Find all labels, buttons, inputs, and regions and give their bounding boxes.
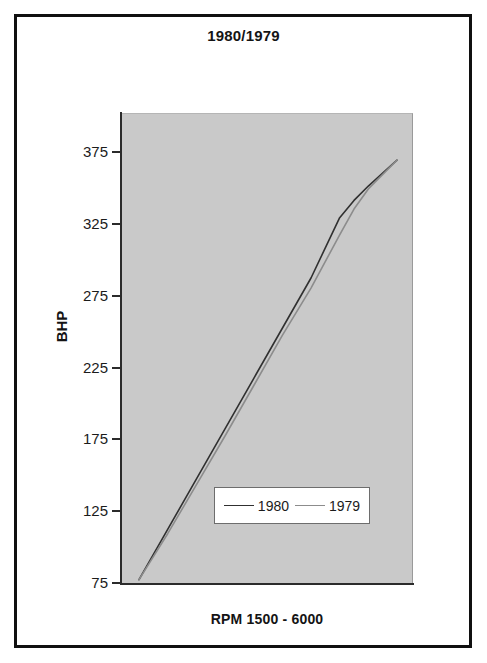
page-title: 1980/1979 bbox=[0, 27, 487, 44]
legend-entry-1980: 1980 bbox=[224, 499, 289, 513]
y-axis-tick-mark bbox=[112, 582, 121, 584]
y-axis-title: BHP bbox=[53, 310, 70, 344]
y-axis-tick-mark bbox=[112, 151, 121, 153]
x-axis-title: RPM 1500 - 6000 bbox=[121, 611, 413, 627]
y-axis-tick-label: 175 bbox=[38, 431, 108, 446]
legend-label: 1980 bbox=[258, 499, 289, 513]
y-axis-tick-mark bbox=[112, 438, 121, 440]
chart-legend: 19801979 bbox=[214, 487, 370, 524]
y-axis-tick-label: 325 bbox=[38, 216, 108, 231]
y-axis-tick-mark bbox=[112, 367, 121, 369]
chart-page: 1980/1979 37532527522517512575 BHP RPM 1… bbox=[0, 0, 487, 663]
y-axis-tick-label: 125 bbox=[38, 503, 108, 518]
y-axis-line bbox=[120, 112, 122, 585]
x-axis-line bbox=[120, 583, 414, 585]
y-axis-tick-label: 225 bbox=[38, 360, 108, 375]
y-axis-tick-label: 75 bbox=[38, 575, 108, 590]
legend-entry-1979: 1979 bbox=[295, 499, 360, 513]
y-axis-tick-mark bbox=[112, 510, 121, 512]
y-axis-tick-mark bbox=[112, 223, 121, 225]
y-axis-tick-label: 375 bbox=[38, 144, 108, 159]
legend-label: 1979 bbox=[329, 499, 360, 513]
y-axis-tick-mark bbox=[112, 295, 121, 297]
y-axis-tick-label: 275 bbox=[38, 288, 108, 303]
legend-line-1980 bbox=[224, 505, 254, 506]
legend-line-1979 bbox=[295, 505, 325, 506]
